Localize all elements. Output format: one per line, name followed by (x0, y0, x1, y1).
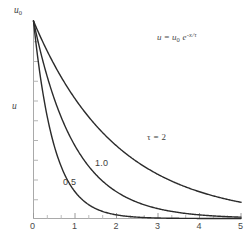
equation-e-term: e (180, 32, 187, 42)
decay-curve-tau-0-5 (34, 21, 242, 218)
x-tick-label-4: 4 (197, 222, 202, 231)
curve-label-tau-2: τ = 2 (147, 133, 166, 142)
y-axis-top-label: u0 (14, 6, 22, 16)
x-tick-label-5: 5 (238, 222, 243, 231)
x-tick-label-1: 1 (72, 222, 77, 231)
exponential-decay-figure: u0 u u = u0 e-x/τ τ = 2 1.0 0.5 0 1 2 3 … (0, 0, 252, 244)
plot-canvas (0, 0, 252, 244)
decay-curves (34, 21, 242, 218)
x-tick-label-3: 3 (155, 222, 160, 231)
y-axis-top-label-subscript: 0 (19, 9, 22, 16)
equation-exponent: -x/τ (187, 31, 197, 38)
curve-label-tau-05: 0.5 (63, 178, 76, 187)
axis-lines (34, 21, 242, 219)
x-tick-label-2: 2 (114, 222, 119, 231)
y-axis-ticks (34, 42, 39, 200)
decay-curve-tau-1 (34, 21, 242, 217)
curve-label-tau-1: 1.0 (95, 159, 108, 168)
equation-annotation: u = u0 e-x/τ (157, 32, 197, 43)
equation-equals: = (162, 32, 172, 42)
y-axis-name-label: u (12, 102, 17, 112)
x-tick-label-0: 0 (30, 222, 35, 231)
